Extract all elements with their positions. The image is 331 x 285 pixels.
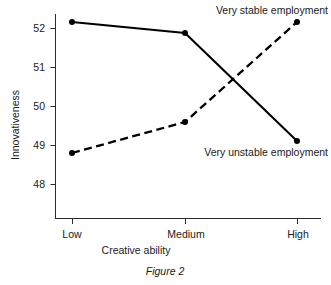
annotation-very-stable-employment: Very stable employment xyxy=(216,4,328,16)
data-point-unstable-low xyxy=(69,150,75,156)
x-tick-label-medium: Medium xyxy=(167,228,205,240)
x-tick-label-low: Low xyxy=(62,228,82,240)
y-tick-label-52: 52 xyxy=(33,22,45,34)
data-point-stable-low xyxy=(69,19,75,25)
x-tick-label-high: High xyxy=(287,228,309,240)
y-tick-label-49: 49 xyxy=(33,139,45,151)
series-line-very-unstable-employment xyxy=(72,22,297,153)
line-chart: 52 51 50 49 48 Innovativeness Low Medium… xyxy=(0,0,331,285)
x-axis-title: Creative ability xyxy=(102,244,172,256)
figure-caption: Figure 2 xyxy=(146,265,185,277)
data-point-stable-high xyxy=(294,138,300,144)
y-tick-label-48: 48 xyxy=(33,178,45,190)
figure-container: 52 51 50 49 48 Innovativeness Low Medium… xyxy=(0,0,331,285)
y-axis-title: Innovativeness xyxy=(9,90,21,160)
y-tick-label-51: 51 xyxy=(33,61,45,73)
y-tick-label-50: 50 xyxy=(33,100,45,112)
data-point-unstable-medium xyxy=(182,119,188,125)
data-point-stable-medium xyxy=(182,30,188,36)
data-point-unstable-high xyxy=(294,19,300,25)
annotation-very-unstable-employment: Very unstable employment xyxy=(204,146,328,158)
